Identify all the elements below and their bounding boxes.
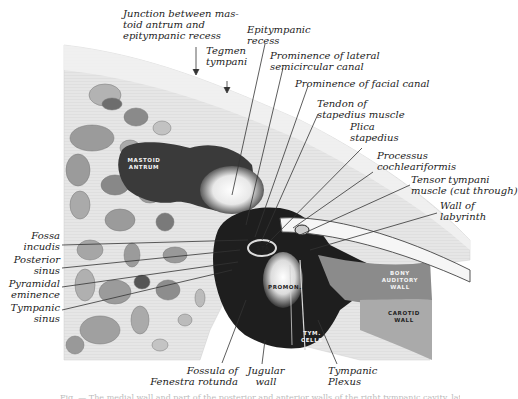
label-tensor-tympani: Tensor tympani muscle (cut through): [411, 174, 518, 196]
label-pyramidal-eminence: Pyramidal eminence: [0, 278, 60, 300]
bony-auditory-wall-inset-label: BONY AUDITORY WALL: [380, 270, 420, 291]
figure-caption: Fig. — The medial wall and part of the p…: [60, 393, 460, 399]
label-plica-stapedius: Plica stapedius: [350, 121, 399, 143]
label-prominence-lateral-canal: Prominence of lateral semicircular canal: [270, 50, 380, 72]
label-tympanic-sinus: Tympanic sinus: [0, 302, 60, 324]
label-junction-antrum-epitympanic: Junction between mas- toid antrum and ep…: [123, 8, 239, 41]
label-prominence-facial-canal: Prominence of facial canal: [295, 78, 430, 89]
label-processus-cochleariformis: Processus cochleariformis: [377, 150, 456, 172]
label-tendon-stapedius: Tendon of stapedius muscle: [317, 98, 405, 120]
label-fossa-incudis: Fossa incudis: [0, 230, 60, 252]
promontory-region: [263, 252, 303, 308]
label-wall-of-labyrinth: Wall of labyrinth: [440, 200, 486, 222]
mastoid-antrum-inset-label: MASTOID ANTRUM: [124, 157, 164, 171]
stapes-inset-label: STA: [254, 245, 272, 252]
promontory-inset-label: PROMON.: [268, 284, 302, 291]
label-fossula-fenestra-rotunda: Fossula of Fenestra rotunda: [150, 365, 238, 387]
figure: MASTOID ANTRUM STA PROMON. TYM. CELLS BO…: [0, 0, 518, 399]
label-posterior-sinus: Posterior sinus: [0, 254, 60, 276]
carotid-wall-inset-label: CAROTID WALL: [385, 310, 423, 324]
label-tympanic-plexus: Tympanic Plexus: [328, 365, 377, 387]
label-epitympanic-recess: Epitympanic recess: [247, 24, 311, 46]
label-jugular-wall: Jugular wall: [246, 365, 286, 387]
tym-cells-inset-label: TYM. CELLS: [300, 330, 324, 344]
label-tegmen-tympani: Tegmen tympani: [206, 45, 247, 67]
